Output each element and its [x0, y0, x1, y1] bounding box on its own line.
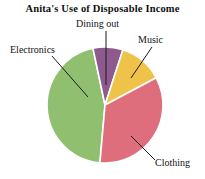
slice-label-dining-out: Dining out	[76, 19, 119, 30]
slice-label-clothing: Clothing	[155, 158, 190, 169]
slice-label-electronics: Electronics	[10, 45, 55, 56]
slice-label-music: Music	[138, 35, 163, 46]
pie-chart-figure: Anita's Use of Disposable Income Dining …	[0, 0, 205, 179]
pie-slices	[47, 47, 163, 163]
